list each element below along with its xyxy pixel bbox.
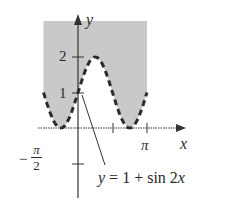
eq-sin: sin 2 [147, 169, 178, 186]
y-tick-label-2: 2 [59, 49, 67, 64]
x-axis-label: x [180, 136, 187, 152]
y-axis-arrow-icon [74, 14, 82, 25]
neg-sign: − [19, 152, 27, 167]
x-axis-arrow-icon [176, 124, 186, 132]
label-leader-line [82, 95, 105, 165]
eq-plus: + [134, 169, 143, 186]
eq-x: x [178, 169, 185, 186]
x-tick-label-pi: π [141, 138, 149, 153]
fraction-denominator: 2 [33, 159, 40, 172]
equation-label: y = 1 + sin 2x [98, 170, 185, 186]
eq-y: y [98, 169, 105, 186]
shaded-region [44, 21, 148, 128]
y-tick-label-1: 1 [59, 86, 67, 101]
eq-equals: = [109, 169, 118, 186]
eq-one: 1 [122, 169, 130, 186]
x-tick-label-neg-half-pi: π 2 [31, 143, 42, 172]
y-axis-label: y [86, 12, 93, 28]
fraction-numerator: π [33, 143, 40, 156]
